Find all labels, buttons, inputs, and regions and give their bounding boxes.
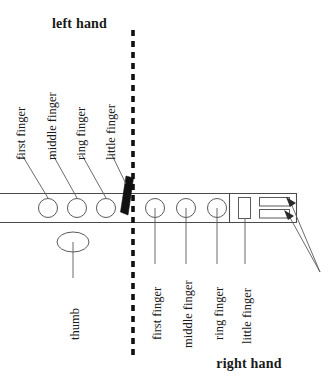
label-left-ring-finger: ring finger	[74, 106, 88, 160]
left-hand-title: left hand	[52, 16, 107, 31]
key-lever-right-little-finger[interactable]	[239, 198, 251, 219]
label-right-little-finger: little finger	[240, 287, 254, 344]
thumb-marker	[57, 232, 89, 278]
callout-arrow-line-upper	[290, 201, 320, 272]
label-left-first-finger: first finger	[14, 106, 28, 160]
leader-left-middle-finger	[53, 155, 77, 198]
label-right-ring-finger: ring finger	[212, 286, 226, 340]
callout-arrow-line-lower	[288, 214, 320, 272]
key-lever-upper[interactable]	[260, 198, 290, 207]
hand-position-diagram: left hand right hand first finger middle…	[0, 0, 335, 387]
right-hand-title: right hand	[216, 356, 281, 371]
label-left-middle-finger: middle finger	[45, 91, 59, 160]
right-hand-leader-lines	[155, 208, 245, 264]
leader-left-ring-finger	[82, 155, 106, 198]
label-left-little-finger: little finger	[104, 103, 118, 160]
label-thumb: thumb	[68, 308, 82, 340]
left-hand-finger-labels: first finger middle finger ring finger l…	[14, 91, 118, 160]
right-hand-finger-labels: first finger middle finger ring finger l…	[150, 279, 254, 348]
left-hand-leader-lines	[22, 155, 126, 198]
key-hole-left-ring-finger[interactable]	[97, 199, 116, 218]
key-hole-left-middle-finger[interactable]	[68, 199, 87, 218]
label-right-first-finger: first finger	[150, 286, 164, 340]
label-right-middle-finger: middle finger	[181, 279, 195, 348]
left-hand-key-holes	[39, 199, 116, 218]
keyboard-bar	[0, 194, 297, 223]
lever-callout-arrows	[284, 197, 320, 272]
key-hole-left-first-finger[interactable]	[39, 199, 58, 218]
diagram-canvas: left hand right hand first finger middle…	[0, 0, 335, 387]
leader-left-first-finger	[22, 155, 48, 198]
